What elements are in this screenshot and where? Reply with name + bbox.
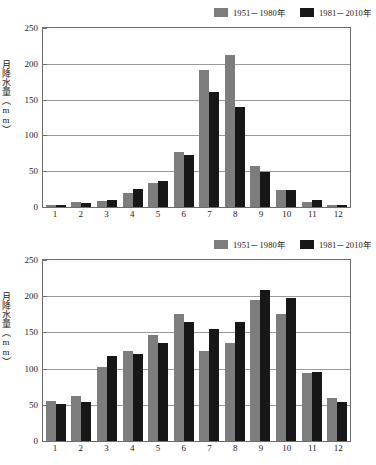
legend-item-1951-1980: 1951－1980年	[214, 238, 286, 250]
x-tick-2: 2	[68, 209, 94, 219]
bar-series-b-month-11	[312, 200, 322, 207]
bar-group-month-1	[43, 260, 69, 441]
bar-series-b-month-1	[56, 205, 66, 207]
x-tick-12: 12	[325, 209, 351, 219]
bar-series-a-month-5	[148, 335, 158, 441]
bar-series-b-month-4	[133, 354, 143, 441]
bar-series-b-month-6	[184, 322, 194, 441]
bar-group-month-8	[222, 28, 248, 207]
x-tick-4: 4	[119, 209, 145, 219]
bar-series-a-month-7	[199, 351, 209, 442]
bar-series-b-month-10	[286, 190, 296, 207]
y-tick-200: 200	[25, 291, 44, 301]
bar-series-a-month-11	[302, 202, 312, 207]
bar-group-month-11	[299, 260, 325, 441]
bar-groups	[43, 260, 350, 441]
bar-group-month-4	[120, 260, 146, 441]
y-tick-100: 100	[25, 364, 44, 374]
bar-series-b-month-1	[56, 404, 66, 441]
bar-series-a-month-11	[302, 373, 312, 441]
y-tick-150: 150	[25, 95, 44, 105]
legend-item-1981-2010: 1981－2010年	[300, 238, 372, 250]
bar-series-b-month-2	[81, 402, 91, 441]
chart-legend: 1951－1980年 1981－2010年	[214, 238, 372, 250]
lower-precipitation-chart: 1951－1980年 1981－2010年 月降水量（mm） 250 200 1…	[0, 232, 376, 465]
bar-series-b-month-3	[107, 356, 117, 441]
bar-series-a-month-10	[276, 314, 286, 441]
bar-group-month-3	[94, 260, 120, 441]
bar-groups	[43, 28, 350, 207]
bar-series-b-month-7	[209, 329, 219, 441]
x-tick-6: 6	[171, 209, 197, 219]
bar-group-month-6	[171, 260, 197, 441]
bar-group-month-7	[196, 28, 222, 207]
legend-label-1951-1980: 1951－1980年	[233, 6, 286, 18]
x-tick-6: 6	[171, 443, 197, 453]
legend-label-1951-1980: 1951－1980年	[233, 238, 286, 250]
bar-series-a-month-9	[250, 300, 260, 441]
x-tick-5: 5	[145, 443, 171, 453]
bar-group-month-6	[171, 28, 197, 207]
bar-series-b-month-12	[337, 205, 347, 207]
x-tick-1: 1	[42, 209, 68, 219]
bar-group-month-10	[273, 28, 299, 207]
y-tick-250: 250	[25, 23, 44, 33]
bar-series-b-month-10	[286, 298, 296, 441]
x-tick-9: 9	[248, 209, 274, 219]
bar-group-month-3	[94, 28, 120, 207]
x-tick-7: 7	[197, 209, 223, 219]
bar-series-a-month-9	[250, 166, 260, 207]
bar-group-month-2	[69, 260, 95, 441]
x-axis-ticks: 123456789101112	[42, 209, 351, 219]
bar-series-b-month-12	[337, 402, 347, 441]
bar-group-month-8	[222, 260, 248, 441]
y-axis-label: 月降水量（mm）	[1, 292, 10, 366]
bar-series-a-month-7	[199, 70, 209, 207]
bar-series-b-month-7	[209, 92, 219, 207]
y-axis-label: 月降水量（mm）	[1, 60, 10, 134]
bar-series-a-month-12	[327, 398, 337, 441]
bar-series-a-month-1	[46, 401, 56, 441]
legend-item-1951-1980: 1951－1980年	[214, 6, 286, 18]
bar-series-b-month-3	[107, 200, 117, 207]
x-tick-9: 9	[248, 443, 274, 453]
bar-series-b-month-5	[158, 343, 168, 441]
bar-series-a-month-6	[174, 152, 184, 207]
bar-series-a-month-10	[276, 190, 286, 207]
x-tick-8: 8	[222, 209, 248, 219]
x-tick-3: 3	[94, 209, 120, 219]
y-tick-50: 50	[29, 400, 43, 410]
bar-group-month-12	[324, 260, 350, 441]
x-tick-12: 12	[325, 443, 351, 453]
bar-series-b-month-4	[133, 189, 143, 207]
legend-swatch-gray	[214, 8, 228, 17]
x-tick-2: 2	[68, 443, 94, 453]
bar-series-b-month-9	[260, 172, 270, 207]
bar-series-a-month-1	[46, 205, 56, 207]
bar-group-month-4	[120, 28, 146, 207]
bar-group-month-12	[324, 28, 350, 207]
bar-series-b-month-11	[312, 372, 322, 441]
y-tick-150: 150	[25, 327, 44, 337]
bar-series-a-month-2	[71, 396, 81, 441]
x-tick-10: 10	[274, 209, 300, 219]
y-tick-100: 100	[25, 130, 44, 140]
x-tick-3: 3	[94, 443, 120, 453]
legend-item-1981-2010: 1981－2010年	[300, 6, 372, 18]
bar-series-a-month-4	[123, 351, 133, 441]
legend-swatch-black	[300, 8, 314, 17]
x-tick-10: 10	[274, 443, 300, 453]
bar-series-a-month-3	[97, 201, 107, 207]
bar-series-b-month-8	[235, 322, 245, 441]
bar-group-month-5	[145, 260, 171, 441]
x-tick-8: 8	[222, 443, 248, 453]
legend-swatch-black	[300, 240, 314, 249]
bar-series-a-month-2	[71, 202, 81, 207]
upper-precipitation-chart: 1951－1980年 1981－2010年 月降水量（mm） 250 200 1…	[0, 0, 376, 232]
x-tick-11: 11	[300, 443, 326, 453]
bar-group-month-9	[248, 28, 274, 207]
x-axis-ticks: 123456789101112	[42, 443, 351, 453]
bar-series-a-month-8	[225, 55, 235, 207]
x-tick-11: 11	[300, 209, 326, 219]
bar-series-a-month-6	[174, 314, 184, 441]
